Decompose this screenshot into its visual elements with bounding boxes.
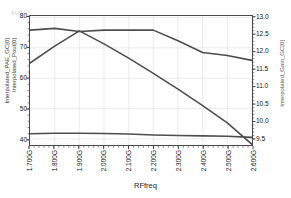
x-axis-tick-9: 2.600G [250, 150, 257, 171]
x-axis-tick-2: 1.900G [76, 150, 83, 171]
series-line [30, 28, 252, 60]
series-line [30, 31, 252, 145]
x-axis-tick-7: 2.400G [200, 150, 207, 171]
x-axis-tick-4: 2.100G [125, 150, 132, 171]
x-axis-title: RFfreq [0, 181, 291, 190]
plot-area [29, 15, 253, 146]
x-axis-tick-5: 2.200G [150, 150, 157, 171]
x-axis-tick-1: 1.800G [51, 150, 58, 171]
x-axis-tick-8: 2.500G [225, 150, 232, 171]
x-axis-tick-3: 2.000G [100, 150, 107, 171]
data-curves [30, 16, 252, 145]
chart-container: AUC Interpolated_PAE_GC[0] Interpolated_… [0, 0, 291, 198]
series-line [30, 133, 252, 137]
x-axis-tick-6: 2.300G [175, 150, 182, 171]
x-axis-tick-0: 1.700G [26, 150, 33, 171]
